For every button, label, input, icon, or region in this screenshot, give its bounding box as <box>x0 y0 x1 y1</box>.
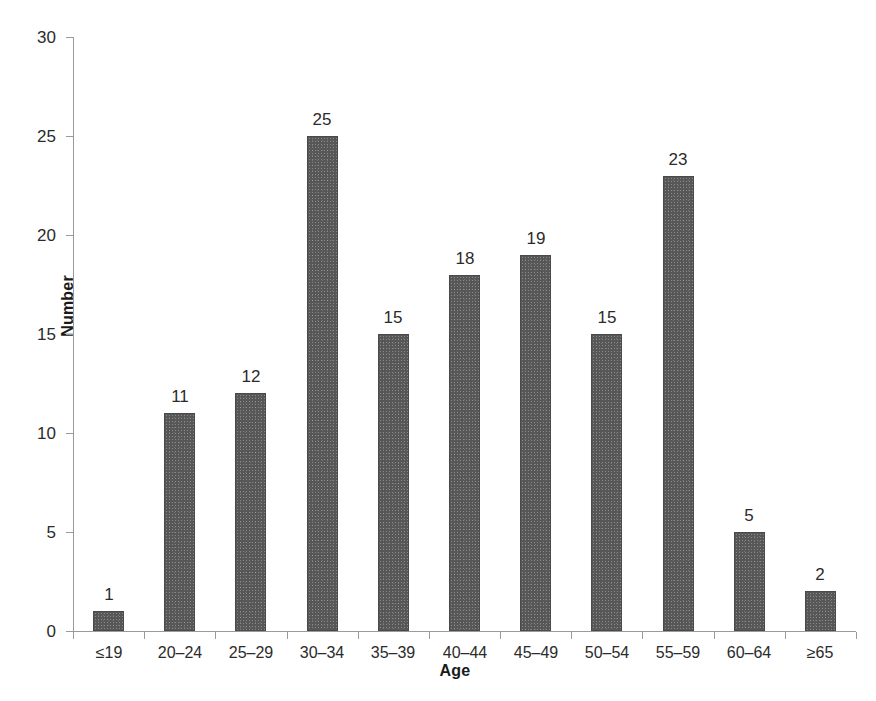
bars-layer: 1111225151819152352 <box>0 0 876 701</box>
bar <box>520 255 551 631</box>
x-axis-category-label: ≥65 <box>775 645 865 661</box>
bar-value-label: 12 <box>221 368 281 385</box>
x-axis-title-row: Age <box>0 662 876 680</box>
bar-value-label: 1 <box>79 586 139 603</box>
bar <box>663 176 694 631</box>
bar <box>164 413 195 631</box>
x-axis-title: Age <box>440 662 471 680</box>
bar-value-label: 15 <box>363 309 423 326</box>
bar <box>591 334 622 631</box>
bar <box>378 334 409 631</box>
bar <box>449 275 480 631</box>
bar-chart-figure: Number 051015202530 1111225151819152352 … <box>0 0 876 701</box>
bar-value-label: 23 <box>648 151 708 168</box>
bar-value-label: 19 <box>506 230 566 247</box>
bar-value-label: 18 <box>435 250 495 267</box>
bar <box>734 532 765 631</box>
bar <box>805 591 836 631</box>
bar-value-label: 11 <box>150 388 210 405</box>
bar <box>307 136 338 631</box>
bar <box>93 611 124 631</box>
bar <box>235 393 266 631</box>
bar-value-label: 25 <box>292 111 352 128</box>
bar-value-label: 2 <box>790 566 850 583</box>
bar-value-label: 15 <box>577 309 637 326</box>
bar-value-label: 5 <box>719 507 779 524</box>
